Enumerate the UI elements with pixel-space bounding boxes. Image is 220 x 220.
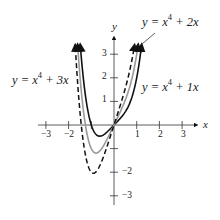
- y-tick-label-p1: 1: [102, 94, 107, 104]
- curves: [75, 47, 141, 173]
- x-tick-label-p3: 3: [181, 129, 186, 139]
- x-tick-label-p2: 2: [158, 129, 163, 139]
- y-tick-label-p3: 3: [102, 48, 107, 58]
- equation-label-1x: y = x4 + 1x: [142, 80, 199, 95]
- annotation-pointer-2x: [142, 33, 155, 44]
- y-tick-label-m3: −3: [122, 190, 132, 200]
- x-tick-label-m3: −3: [41, 129, 51, 139]
- x-tick-label-m2: −2: [64, 129, 74, 139]
- equation-label-2x: y = x4 + 2x: [142, 15, 199, 30]
- x-axis-label: x: [203, 118, 208, 130]
- chart-canvas: [0, 0, 220, 220]
- y-tick-label-p2: 2: [102, 71, 107, 81]
- x-tick-label-p1: 1: [135, 129, 140, 139]
- y-tick-label-m2: −2: [122, 166, 132, 176]
- y-axis-label: y: [112, 20, 117, 32]
- equation-label-3x: y = x4 + 3x: [12, 73, 69, 88]
